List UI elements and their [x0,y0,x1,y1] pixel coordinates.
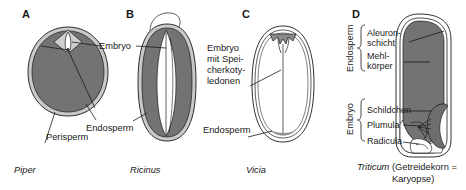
label-mehl-1: Mehl- [367,51,390,61]
label-aleuron-2: schicht [367,38,396,48]
panel-c-vicia: C Embryo mit Spei- cherkoty- ledonen End… [203,8,314,175]
panel-a-piper: A Perisperm Piper [14,8,108,175]
label-plumula: Plumula [367,120,400,130]
label-embryo-mit-1: Embryo [207,43,239,53]
caption-ricinus: Ricinus [130,165,161,175]
panel-letter-c: C [242,8,250,20]
label-endosperm: Endosperm [86,123,134,133]
label-embryo-group: Embryo [345,103,355,135]
caption-piper: Piper [14,165,37,175]
label-embryo-mit-2: mit Spei- [207,54,244,64]
label-endosperm-c: Endosperm [203,125,251,135]
label-mehl-2: körper [367,61,393,71]
label-aleuron-1: Aleuron- [367,28,401,38]
brace-endosperm [358,25,366,71]
label-embryo: Embryo [99,41,131,51]
label-endosperm-group: Endosperm [345,24,355,72]
caption-triticum-line2: Karyopse) [392,174,434,184]
label-embryo-mit-3: cherkoty- [207,65,245,75]
panel-d-triticum: Endosperm Embryo D Aleuron- schicht Mehl… [345,8,457,184]
brace-embryo [358,99,366,141]
label-embryo-mit-4: ledonen [207,76,240,86]
label-radicula: Radicula [367,136,402,146]
label-schildchen: Schildchen [367,105,411,115]
panel-letter-d: D [352,8,360,20]
caption-vicia: Vicia [246,165,266,175]
caption-triticum: Triticum (Getreidekorn = [357,162,457,172]
caption-triticum-genus: Triticum [357,162,390,172]
seed-anatomy-figure: A Perisperm Piper B Embryo Endosperm [0,0,466,190]
label-perisperm: Perisperm [46,132,89,142]
panel-letter-a: A [22,8,30,20]
panel-letter-b: B [126,8,134,20]
diagram-canvas: A Perisperm Piper B Embryo Endosperm [0,0,466,190]
caption-triticum-rest: (Getreidekorn = [389,162,456,172]
